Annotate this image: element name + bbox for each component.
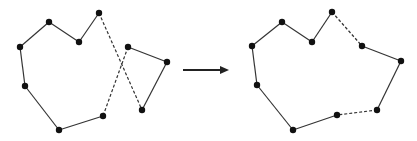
before-node <box>96 10 102 16</box>
after-node <box>334 112 340 118</box>
before-edge-dashed <box>99 13 142 110</box>
before-edge-solid <box>49 22 79 42</box>
after-edge-solid <box>362 46 401 61</box>
after-edge-solid <box>293 115 337 130</box>
after-node <box>254 82 260 88</box>
before-edge-solid <box>25 86 59 130</box>
before-node <box>164 59 170 65</box>
before-node <box>76 39 82 45</box>
after-merged-tour <box>249 9 404 133</box>
after-node <box>398 58 404 64</box>
after-node <box>359 43 365 49</box>
before-edge-solid <box>59 116 103 130</box>
after-edge-dashed <box>332 12 362 46</box>
after-node <box>374 107 380 113</box>
before-edge-solid <box>20 47 25 86</box>
before-node <box>17 44 23 50</box>
after-edge-solid <box>312 12 332 42</box>
after-edge-solid <box>257 85 293 130</box>
before-node <box>56 127 62 133</box>
tour-merge-diagram <box>0 0 417 141</box>
after-edge-solid <box>252 46 257 85</box>
before-node <box>22 83 28 89</box>
after-edge-dashed <box>337 110 377 115</box>
before-edge-solid <box>20 22 49 47</box>
after-node <box>290 127 296 133</box>
after-edge-solid <box>377 61 401 110</box>
before-edge-solid <box>142 62 167 110</box>
after-edge-solid <box>282 22 312 42</box>
after-node <box>309 39 315 45</box>
before-edge-solid <box>79 13 99 42</box>
before-tours <box>17 10 170 133</box>
after-node <box>249 43 255 49</box>
before-node <box>100 113 106 119</box>
arrow-head <box>220 66 229 74</box>
before-node <box>125 44 131 50</box>
before-node <box>139 107 145 113</box>
after-edge-solid <box>252 22 282 46</box>
before-edge-solid <box>128 47 167 62</box>
before-node <box>46 19 52 25</box>
transform-arrow-icon <box>183 66 229 74</box>
before-edge-dashed <box>103 47 128 116</box>
after-node <box>329 9 335 15</box>
after-node <box>279 19 285 25</box>
